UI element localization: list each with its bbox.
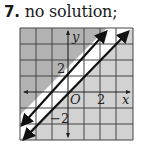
inequality-graph: y x O 2 2 −2 <box>0 0 155 144</box>
x-tick-2: 2 <box>97 92 105 107</box>
origin-label: O <box>70 92 81 107</box>
x-axis-label: x <box>122 92 130 107</box>
y-tick-neg2: −2 <box>50 111 69 126</box>
y-tick-2: 2 <box>57 61 65 76</box>
y-axis-label: y <box>71 29 80 44</box>
